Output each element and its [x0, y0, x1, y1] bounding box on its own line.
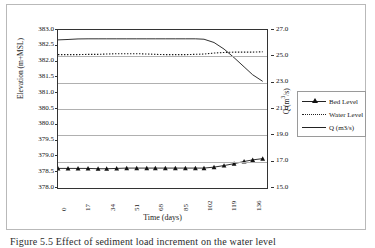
y-axis-left-tick-label: 381.0 — [38, 89, 54, 96]
y-axis-right-tickmark — [271, 134, 274, 135]
y-axis-right-tick-label: 19.0 — [276, 131, 288, 138]
x-axis-tick-label: 51 — [134, 204, 141, 211]
x-axis-tick-label: 119 — [231, 201, 238, 211]
y-axis-right-ticklabels: 15.017.019.021.023.025.027.0 — [271, 25, 297, 193]
gridline — [58, 135, 267, 136]
y-axis-right-tickmark — [271, 29, 274, 30]
legend-item-bed-level: Bed Level — [301, 95, 362, 108]
x-axis-title: Time (days) — [57, 213, 268, 222]
gridline — [58, 162, 267, 163]
y-axis-left-ticklabels: 378.0378.5379.0379.5380.0380.5381.0381.5… — [22, 25, 54, 193]
y-axis-left-tick-label: 382.5 — [38, 41, 54, 48]
legend-label-q: Q (m3/s) — [327, 124, 354, 132]
figure-caption: Figure 5.5 Effect of sediment load incre… — [10, 236, 366, 248]
y-axis-left-tick-label: 383.0 — [38, 26, 54, 33]
x-axis-tick-label: 102 — [207, 201, 214, 212]
y-axis-right-tick-label: 21.0 — [276, 105, 288, 112]
y-axis-right-tick-label: 17.0 — [276, 157, 288, 164]
y-axis-left-tick-label: 378.0 — [38, 184, 54, 191]
legend-key-water-level-icon — [301, 110, 327, 120]
y-axis-left-tick-label: 379.0 — [38, 152, 54, 159]
chart-legend: Bed Level Water Level Q (m3/s) — [297, 91, 366, 137]
x-axis-ticklabels: 01734516885102119136 — [57, 191, 268, 213]
y-axis-left-tick-label: 378.5 — [38, 168, 54, 175]
x-axis-tick-label: 0 — [61, 208, 68, 212]
y-axis-right-tick-label: 23.0 — [276, 78, 288, 85]
plot-area — [57, 29, 268, 189]
x-axis-tick-label: 34 — [110, 204, 117, 211]
legend-key-q-icon — [301, 123, 327, 133]
legend-label-bed-level: Bed Level — [327, 98, 358, 106]
y-axis-right-tick-label: 27.0 — [276, 26, 288, 33]
gridline — [58, 109, 267, 110]
series-line-water-level — [58, 52, 263, 55]
y-axis-right-tickmark — [271, 108, 274, 109]
y-axis-right-tick-label: 15.0 — [276, 184, 288, 191]
legend-label-water-level: Water Level — [327, 111, 363, 119]
y-axis-left-tick-label: 379.5 — [38, 136, 54, 143]
y-axis-right-tickmark — [271, 55, 274, 56]
series-line-q-m3-s — [58, 39, 263, 82]
gridline — [58, 83, 267, 84]
y-axis-left-tick-label: 380.0 — [38, 120, 54, 127]
y-axis-right-tickmark — [271, 187, 274, 188]
y-axis-left-tick-label: 380.5 — [38, 105, 54, 112]
x-axis-tick-label: 136 — [256, 201, 263, 212]
series-line-bed-level — [58, 159, 263, 169]
y-axis-right-tickmark — [271, 161, 274, 162]
y-axis-right-tickmark — [271, 82, 274, 83]
x-axis-tick-label: 68 — [158, 204, 165, 211]
x-axis-tick-label: 17 — [85, 204, 92, 211]
legend-item-q: Q (m3/s) — [301, 121, 362, 134]
y-axis-right-tick-label: 25.0 — [276, 52, 288, 59]
y-axis-left-tick-label: 381.5 — [38, 73, 54, 80]
y-axis-left-tick-label: 382.0 — [38, 57, 54, 64]
gridline — [58, 56, 267, 57]
legend-key-bed-level-icon — [301, 97, 327, 107]
figure-container: Elevation (m+MSL) Q (m3/s) 378.0378.5379… — [0, 0, 375, 248]
x-axis-tick-label: 85 — [183, 204, 190, 211]
legend-item-water-level: Water Level — [301, 108, 362, 121]
